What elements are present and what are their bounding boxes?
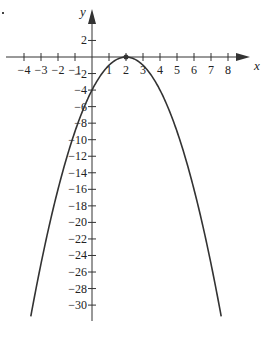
parabola-curve (31, 57, 221, 316)
ticks: −4−3−2−1123456782−2−4−6−8−10−12−14−16−18… (18, 33, 231, 312)
y-tick-label: −2 (74, 67, 87, 81)
y-axis-arrow-icon (88, 9, 96, 24)
y-axis-label: y (78, 4, 86, 19)
x-tick-label: 6 (191, 63, 197, 77)
y-tick-label: −12 (68, 149, 87, 163)
y-tick-label: −24 (68, 248, 87, 262)
x-tick-label: −3 (35, 63, 48, 77)
x-tick-label: 8 (225, 63, 231, 77)
x-tick-label: 2 (123, 63, 129, 77)
curve-layer (31, 55, 221, 317)
parabola-chart: −4−3−2−1123456782−2−4−6−8−10−12−14−16−18… (0, 0, 268, 363)
corner-mark (2, 12, 4, 14)
x-tick-label: 5 (174, 63, 180, 77)
y-tick-label: −30 (68, 298, 87, 312)
x-tick-label: 4 (157, 63, 163, 77)
x-tick-label: −4 (18, 63, 31, 77)
x-axis-label: x (253, 58, 260, 73)
x-axis-arrow-icon (236, 53, 250, 61)
vertex-point (124, 55, 129, 60)
y-tick-label: −20 (68, 215, 87, 229)
y-tick-label: −16 (68, 182, 87, 196)
y-tick-label: −14 (68, 166, 87, 180)
y-tick-label: −26 (68, 265, 87, 279)
y-tick-label: 2 (81, 33, 87, 47)
y-tick-label: −4 (74, 83, 87, 97)
x-tick-label: −2 (52, 63, 65, 77)
y-tick-label: −18 (68, 199, 87, 213)
x-tick-label: 7 (208, 63, 214, 77)
y-tick-label: −22 (68, 232, 87, 246)
y-tick-label: −28 (68, 282, 87, 296)
